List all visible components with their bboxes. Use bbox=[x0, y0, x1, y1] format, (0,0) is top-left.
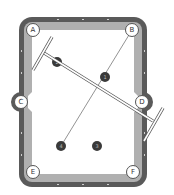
svg-text:C: C bbox=[19, 98, 24, 106]
svg-text:4: 4 bbox=[59, 143, 62, 149]
pocket-d: D bbox=[136, 96, 149, 109]
ball-3: 3 bbox=[92, 141, 102, 151]
pool-table-diagram: 2 1 4 3 A B bbox=[0, 0, 174, 195]
pocket-c: C bbox=[15, 96, 28, 109]
svg-text:A: A bbox=[31, 26, 36, 34]
pocket-e: E bbox=[27, 166, 40, 179]
pocket-f: F bbox=[127, 166, 140, 179]
ball-4: 4 bbox=[56, 141, 66, 151]
svg-text:E: E bbox=[31, 168, 35, 176]
pocket-a: A bbox=[27, 24, 40, 37]
svg-text:D: D bbox=[139, 98, 144, 106]
ball-1: 1 bbox=[100, 72, 110, 82]
svg-text:1: 1 bbox=[103, 74, 106, 80]
pocket-b: B bbox=[126, 24, 139, 37]
svg-text:3: 3 bbox=[95, 143, 98, 149]
svg-text:F: F bbox=[131, 168, 135, 176]
svg-text:B: B bbox=[130, 26, 135, 34]
